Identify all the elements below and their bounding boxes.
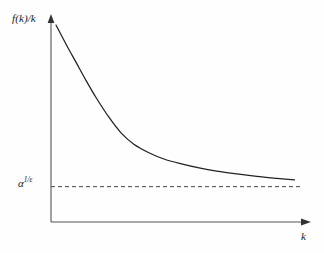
- x-axis-arrowhead: [301, 219, 311, 226]
- x-axis-label: k: [301, 231, 306, 242]
- y-axis-arrowhead: [48, 14, 55, 23]
- plot-canvas: [0, 0, 324, 253]
- figure-container: f(k)/k α1/ε k: [0, 0, 324, 253]
- threshold-value-label: α1/ε: [18, 176, 33, 189]
- threshold-exponent: 1/ε: [24, 175, 33, 184]
- y-axis-label: f(k)/k: [12, 13, 36, 24]
- decreasing-curve: [56, 25, 294, 180]
